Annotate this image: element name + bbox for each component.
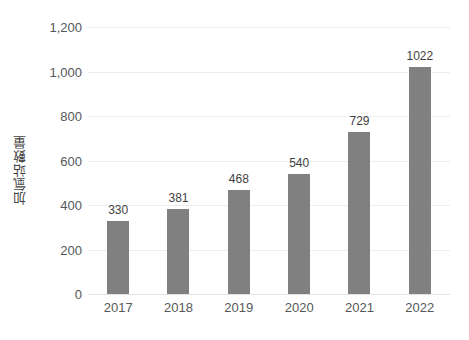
y-axis-tick-label: 0	[30, 287, 82, 302]
y-axis-tick-label: 800	[30, 109, 82, 124]
bar-value-label: 729	[349, 114, 369, 128]
x-axis-tick-label: 2018	[164, 300, 193, 315]
y-axis-tick-label: 400	[30, 198, 82, 213]
bar[interactable]	[228, 190, 250, 294]
x-axis-tick-label: 2020	[285, 300, 314, 315]
bar-group[interactable]: 1022	[390, 27, 450, 294]
bar-group[interactable]: 540	[269, 27, 329, 294]
plot-area: 3303814685407291022	[88, 27, 450, 294]
bar[interactable]	[167, 209, 189, 294]
bar[interactable]	[107, 221, 129, 294]
gridline	[88, 294, 450, 295]
bar[interactable]	[409, 67, 431, 294]
x-axis-tick-labels: 201720182019202020212022	[88, 300, 450, 322]
bar-chart: 加氫站數量 02004006008001,0001,200 3303814685…	[0, 0, 469, 340]
bar-group[interactable]: 729	[329, 27, 389, 294]
x-axis-tick-label: 2017	[104, 300, 133, 315]
bar-value-label: 1022	[406, 49, 433, 63]
bar-value-label: 330	[108, 203, 128, 217]
bars-layer: 3303814685407291022	[88, 27, 450, 294]
y-axis-tick-label: 200	[30, 242, 82, 257]
y-axis-tick-label: 1,000	[30, 64, 82, 79]
bar-group[interactable]: 330	[88, 27, 148, 294]
bar-value-label: 468	[229, 172, 249, 186]
x-axis-tick-label: 2021	[345, 300, 374, 315]
bar-group[interactable]: 468	[209, 27, 269, 294]
y-axis-tick-label: 1,200	[30, 20, 82, 35]
bar-value-label: 381	[168, 191, 188, 205]
x-axis-tick-label: 2019	[224, 300, 253, 315]
x-axis-tick-label: 2022	[405, 300, 434, 315]
y-axis-tick-labels: 02004006008001,0001,200	[30, 27, 82, 294]
y-axis-title: 加氫站數量	[6, 0, 32, 340]
bar-group[interactable]: 381	[148, 27, 208, 294]
y-axis-tick-label: 600	[30, 153, 82, 168]
bar[interactable]	[288, 174, 310, 294]
bar-value-label: 540	[289, 156, 309, 170]
y-axis-title-text: 加氫站數量	[13, 135, 26, 205]
bar[interactable]	[348, 132, 370, 294]
